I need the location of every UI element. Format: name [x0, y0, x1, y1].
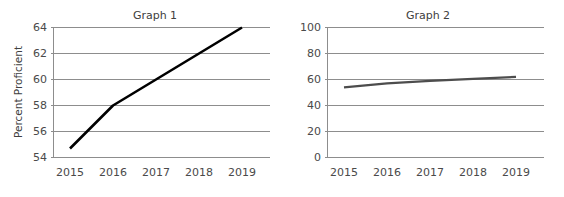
series-line-graph-1	[70, 28, 242, 149]
x-tick-labels-graph-2: 2015 2016 2017 2018 2019	[330, 166, 530, 179]
x-tick-label-2017: 2017	[416, 166, 444, 179]
x-tick-label-2016: 2016	[99, 166, 127, 179]
chart-panel-graph-1: Graph 1 Percent Proficient	[0, 0, 282, 197]
y-axis-title-graph-1: Percent Proficient	[12, 46, 24, 138]
chart-title-graph-1: Graph 1	[133, 9, 177, 22]
chart-panel-graph-2: Graph 2 100	[282, 0, 564, 197]
y-tick-label-40: 40	[307, 99, 321, 112]
y-tick-label-54: 54	[33, 151, 47, 164]
y-tick-label-80: 80	[307, 47, 321, 60]
gridlines-graph-1	[54, 28, 270, 132]
x-tick-label-2015: 2015	[330, 166, 358, 179]
x-tick-label-2018: 2018	[459, 166, 487, 179]
x-tick-label-2017: 2017	[142, 166, 170, 179]
chart-svg-graph-2: Graph 2 100	[282, 0, 564, 197]
y-tick-label-62: 62	[33, 47, 47, 60]
x-tick-label-2015: 2015	[56, 166, 84, 179]
y-tick-label-58: 58	[33, 99, 47, 112]
chart-title-graph-2: Graph 2	[406, 9, 450, 22]
x-tick-label-2019: 2019	[228, 166, 256, 179]
y-tick-label-56: 56	[33, 125, 47, 138]
y-tick-labels-graph-1: 64 62 60 58 56 54	[33, 21, 47, 164]
figure-two-line-graphs: Graph 1 Percent Proficient	[0, 0, 564, 197]
x-tick-label-2019: 2019	[502, 166, 530, 179]
x-tick-label-2016: 2016	[373, 166, 401, 179]
y-tick-label-64: 64	[33, 21, 47, 34]
y-tick-label-100: 100	[300, 21, 321, 34]
y-tick-label-20: 20	[307, 125, 321, 138]
series-line-graph-2	[344, 77, 516, 87]
y-tick-label-60: 60	[33, 73, 47, 86]
chart-svg-graph-1: Graph 1 Percent Proficient	[0, 0, 282, 197]
y-tick-label-60: 60	[307, 73, 321, 86]
y-tick-labels-graph-2: 100 80 60 40 20 0	[300, 21, 321, 164]
x-tick-label-2018: 2018	[185, 166, 213, 179]
x-tick-labels-graph-1: 2015 2016 2017 2018 2019	[56, 166, 256, 179]
y-tick-label-0: 0	[314, 151, 321, 164]
